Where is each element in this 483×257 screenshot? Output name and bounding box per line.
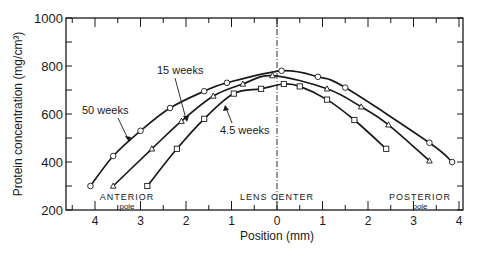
x-tick-label: 4 [92, 214, 99, 228]
x-tick-label: 2 [365, 214, 372, 228]
arrow-15-weeks [175, 78, 186, 119]
y-axis-label: Protein concentration (mg/cm³) [11, 32, 25, 197]
x-tick-label: 0 [274, 214, 281, 228]
lens-center-label: LENS CENTER [240, 192, 314, 202]
x-tick-label: 1 [228, 214, 235, 228]
arrow-50-weeks [118, 118, 128, 139]
x-tick-label: 4 [456, 214, 463, 228]
x-axis-label: Position (mm) [240, 229, 314, 243]
protein-concentration-chart: 2004006008001000432101234 Protein concen… [0, 0, 483, 257]
x-tick-label: 2 [183, 214, 190, 228]
x-tick-label: 1 [319, 214, 326, 228]
x-tick-label: 3 [410, 214, 417, 228]
anterior-pole-label: pole [119, 202, 135, 211]
series-label-50-weeks: 50 weeks [82, 104, 129, 116]
series-label-15-weeks: 15 weeks [157, 64, 204, 76]
y-tick-label: 1000 [34, 11, 63, 26]
x-tick-label: 3 [137, 214, 144, 228]
y-tick-label: 800 [41, 59, 63, 74]
y-tick-label: 600 [41, 107, 63, 122]
anterior-label: ANTERIOR [100, 192, 155, 202]
posterior-label: POSTERIOR [389, 192, 451, 202]
y-tick-label: 200 [41, 203, 63, 218]
series-label-4-5-weeks: 4.5 weeks [220, 124, 270, 136]
arrowhead-4-5-weeks [223, 105, 229, 111]
y-tick-label: 400 [41, 155, 63, 170]
data-series [88, 68, 455, 189]
posterior-pole-label: pole [412, 202, 428, 211]
